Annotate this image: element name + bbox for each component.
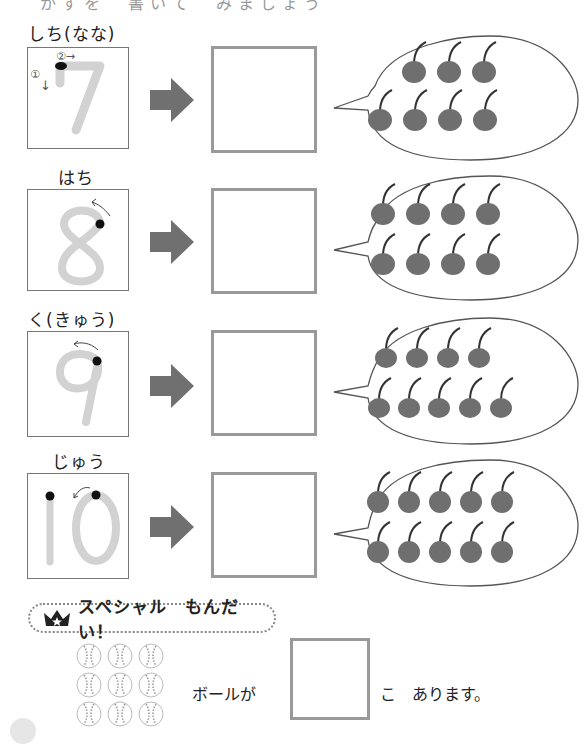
answer-box-10[interactable]: [211, 472, 317, 578]
cherry-bubble-10: [330, 456, 580, 588]
speech-bubble-icon: [330, 172, 580, 302]
trace-box-7[interactable]: ②→ ① ↓: [27, 47, 129, 149]
answer-box-8[interactable]: [211, 188, 317, 294]
baseball-icons: [76, 643, 168, 727]
answer-box-9[interactable]: [211, 330, 317, 436]
trace-numeral-9-icon: [28, 332, 130, 438]
sentence-prefix: ボールが: [192, 681, 256, 705]
speech-bubble-icon: [330, 316, 580, 446]
trace-numeral-8-icon: [28, 190, 130, 292]
right-arrow-icon: [150, 364, 196, 408]
row-label-9: く(きゅう): [28, 306, 115, 331]
svg-text:①: ①: [30, 68, 40, 81]
special-answer-box[interactable]: [290, 638, 370, 720]
speech-bubble-icon: [330, 34, 580, 162]
cherry-bubble-7: [330, 34, 580, 162]
speech-bubble-icon: [330, 456, 580, 588]
sentence-suffix: こ あります。: [380, 681, 490, 705]
answer-box-7[interactable]: [211, 46, 317, 153]
row-label-7: しち(なな): [28, 20, 115, 45]
crown-icon: [44, 608, 70, 628]
trace-numeral-7-icon: ②→ ① ↓: [28, 48, 130, 150]
svg-text:↓: ↓: [40, 78, 51, 93]
right-arrow-icon: [150, 78, 196, 122]
cut-off-header: かずを 書いて みましょう: [40, 0, 326, 14]
special-problem-banner: スペシャル もんだい！: [28, 603, 276, 633]
trace-box-8[interactable]: [27, 189, 129, 291]
right-arrow-icon: [150, 505, 196, 549]
trace-box-9[interactable]: [27, 331, 129, 437]
decorative-circle: [10, 718, 36, 744]
row-label-8: はち: [58, 164, 94, 189]
baseball-grid: [76, 643, 168, 731]
row-label-10: じゅう: [52, 448, 106, 473]
cherry-bubble-8: [330, 172, 580, 302]
svg-text:②→: ②→: [56, 50, 75, 63]
trace-numeral-10-icon: [28, 474, 130, 580]
special-problem-title: スペシャル もんだい！: [78, 593, 274, 643]
trace-box-10[interactable]: [27, 473, 129, 579]
cherry-bubble-9: [330, 316, 580, 446]
right-arrow-icon: [150, 220, 196, 264]
